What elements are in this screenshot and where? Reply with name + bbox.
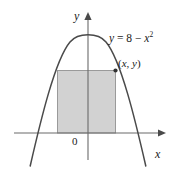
curve-equation-label: y = 8 − x2 [109, 33, 153, 45]
y-axis-arrowhead [84, 12, 91, 20]
equation-equals: = [114, 32, 126, 44]
equation-minus: − [132, 32, 144, 44]
inscribed-rectangle [58, 71, 116, 134]
y-axis-label: y [74, 10, 79, 22]
origin-label: 0 [72, 136, 78, 147]
equation-exponent: 2 [149, 30, 153, 39]
parabola-rectangle-figure: y x 0 y = 8 − x2 (x, y) [0, 0, 178, 170]
point-coordinate-label: (x, y) [118, 58, 141, 69]
point-paren-close: ) [137, 57, 141, 69]
x-axis-arrowhead [158, 129, 166, 136]
x-axis-label: x [155, 148, 160, 160]
figure-canvas [0, 0, 178, 170]
corner-point-dot [113, 68, 117, 72]
